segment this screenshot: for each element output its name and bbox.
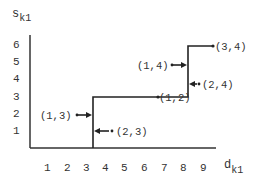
- step-function-diagram: sk1 dk1 1 2 3 4 5 6 1 2 3 4 5 6 7 8 9 (1…: [0, 0, 262, 180]
- point-label-2-3: (2,3): [116, 126, 148, 138]
- x-axis-title: dk1: [224, 158, 243, 176]
- x-tick-6: 6: [141, 162, 148, 174]
- y-tick-1: 1: [13, 125, 20, 137]
- arrow-left-icon: [189, 81, 195, 87]
- arrow-left-icon: [94, 128, 100, 134]
- point-label-1-4: (1,4): [137, 60, 169, 72]
- y-tick-2: 2: [13, 108, 20, 120]
- y-tick-4: 4: [13, 73, 20, 85]
- point-label-3-4: (3,4): [215, 41, 247, 53]
- y-axis-title: sk1: [12, 7, 31, 24]
- x-tick-8: 8: [180, 162, 187, 174]
- y-tick-3: 3: [13, 91, 20, 103]
- point-dot-2-3: [111, 130, 114, 133]
- arrow-right-icon: [181, 62, 187, 68]
- y-tick-6: 6: [13, 39, 20, 51]
- x-tick-3: 3: [83, 162, 90, 174]
- point-label-2-4: (2,4): [202, 79, 234, 91]
- arrow-right-icon: [86, 112, 92, 118]
- x-tick-4: 4: [102, 162, 109, 174]
- x-tick-1: 1: [44, 162, 51, 174]
- point-label-1-2: (1,2): [159, 92, 191, 104]
- x-tick-7: 7: [161, 162, 168, 174]
- point-dot-2-4: [198, 83, 201, 86]
- x-tick-5: 5: [121, 162, 128, 174]
- x-tick-2: 2: [64, 162, 71, 174]
- point-label-1-3: (1,3): [40, 110, 72, 122]
- x-tick-9: 9: [200, 162, 207, 174]
- y-tick-5: 5: [13, 56, 20, 68]
